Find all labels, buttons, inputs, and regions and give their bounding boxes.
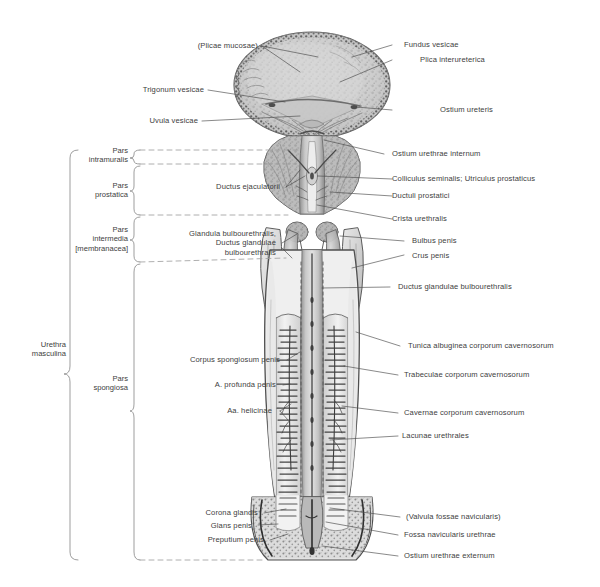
label-corona-glandis: Corona glandis — [182, 508, 258, 517]
label-trabeculae: Trabeculae corporum cavernosorum — [404, 370, 584, 379]
label-ductus-glandulae-bulbourethralis: Ductus glandulae bulbourethralis — [398, 282, 578, 291]
label-fossa-navicularis-urethrae: Fossa navicularis urethrae — [404, 530, 554, 539]
label-tunica-albuginea: Tunica albuginea corporum cavernosorum — [408, 341, 598, 350]
penis-shaft — [265, 250, 360, 506]
label-ductus-ejaculatorii: Ductus ejaculatorii — [186, 182, 280, 191]
label-crus-penis: Crus penis — [412, 251, 486, 260]
bracket-label-pars-spongiosa: Pars spongiosa — [78, 374, 128, 393]
label-ostium-ureteris: Ostium ureteris — [440, 105, 540, 114]
label-ostium-urethrae-internum: Ostium urethrae internum — [392, 149, 542, 158]
label-colliculus-seminalis: Colliculus seminalis; Utriculus prostati… — [392, 174, 582, 183]
label-ostium-urethrae-externum: Ostium urethrae externum — [404, 551, 554, 560]
label-fundus-vesicae: Fundus vesicae — [404, 40, 514, 49]
label-trigonum-vesicae: Trigonum vesicae — [120, 85, 204, 94]
label-glans-penis: Glans penis — [190, 521, 252, 530]
brackets — [64, 150, 140, 560]
bracket-label-urethra-masculina: Urethra masculina — [18, 340, 66, 359]
label-plicae-mucosae: (Plicae mucosae) — [150, 41, 258, 50]
label-uvula-vesicae: Uvula vesicae — [128, 116, 198, 125]
label-bulbus-penis: Bulbus penis — [412, 236, 496, 245]
label-lacunae-urethrales: Lacunae urethrales — [402, 431, 522, 440]
label-plica-interureterica: Plica interureterica — [420, 55, 540, 64]
bracket-label-pars-prostatica: Pars prostatica — [78, 181, 128, 200]
label-glandula-bulbourethralis: Glandula bulbourethralis, Ductus glandul… — [160, 229, 276, 257]
label-crista-urethralis: Crista urethralis — [392, 214, 496, 223]
label-ductuli-prostatici: Ductuli prostatici — [392, 191, 502, 200]
bracket-label-pars-intermedia: Pars intermedia [membranacea] — [62, 225, 128, 253]
label-preputium-penis: Preputium penis — [184, 535, 264, 544]
label-cavernae: Cavernae corporum cavernosorum — [404, 408, 584, 417]
label-corpus-spongiosum-penis: Corpus spongiosum penis — [152, 355, 280, 364]
bracket-label-pars-intramuralis: Pars intramuralis — [78, 146, 128, 165]
figure-canvas: Urethra masculina Pars intramuralis Pars… — [0, 0, 600, 587]
label-a-profunda-penis: A. profunda penis — [178, 380, 276, 389]
label-valvula-fossae-navicularis: (Valvula fossae navicularis) — [406, 512, 556, 521]
label-aa-helicinae: Aa. helicinae — [198, 406, 272, 415]
prostate — [264, 131, 361, 214]
anatomy-illustration — [0, 0, 600, 587]
